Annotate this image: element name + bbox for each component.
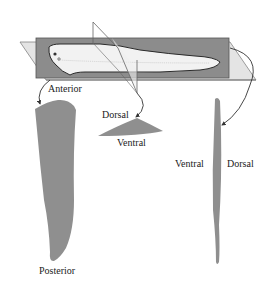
fish-eye bbox=[53, 52, 56, 55]
label-ventral-sagittal: Ventral bbox=[175, 159, 204, 169]
label-dorsal-sagittal: Dorsal bbox=[227, 159, 254, 169]
arrow-to-cross-section bbox=[136, 93, 143, 117]
cross-section-shape bbox=[98, 118, 163, 136]
label-dorsal-cross: Dorsal bbox=[102, 110, 129, 120]
sagittal-section-shape bbox=[213, 98, 222, 264]
label-ventral-cross: Ventral bbox=[117, 138, 146, 148]
label-posterior: Posterior bbox=[39, 266, 75, 276]
label-anterior: Anterior bbox=[48, 84, 82, 94]
frontal-section-shape bbox=[35, 100, 76, 261]
